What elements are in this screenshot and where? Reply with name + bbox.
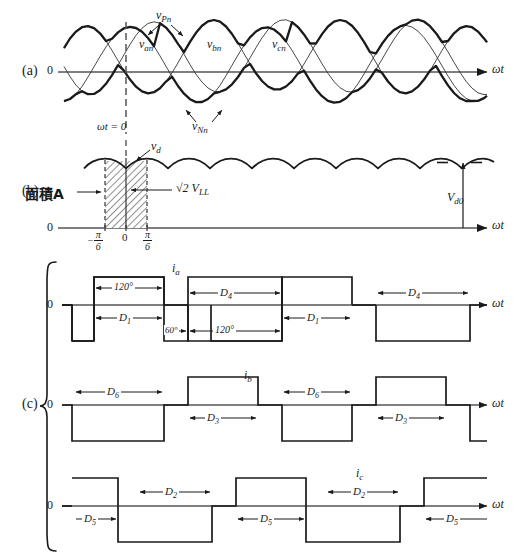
ia-d4-sub: 4 bbox=[228, 292, 232, 301]
ic-d2b-sub: 2 bbox=[361, 491, 365, 500]
ic-axis-label: ωt bbox=[492, 497, 504, 512]
vcn-sub: cn bbox=[277, 43, 286, 53]
label-ib: ib bbox=[244, 368, 252, 384]
tick2-num: π bbox=[143, 229, 152, 241]
ib-d3b-base: D bbox=[395, 411, 403, 423]
ic-d5c-sub: 5 bbox=[454, 518, 458, 527]
ib-d6b-base: D bbox=[307, 385, 315, 397]
tick-label-zero: 0 bbox=[122, 231, 128, 243]
label-van: van bbox=[139, 37, 153, 53]
ic-d2-sub: 2 bbox=[173, 491, 177, 500]
waveform-ib bbox=[62, 377, 487, 441]
envelope-vnn bbox=[64, 64, 487, 103]
ia-d4-base: D bbox=[220, 286, 228, 298]
label-area-a: 面積A bbox=[25, 183, 64, 203]
ia-d1b-sub: 1 bbox=[315, 317, 319, 326]
ia-zero: 0 bbox=[47, 297, 53, 312]
panel-a-label: (a) bbox=[22, 63, 38, 79]
ia-d1-sub: 1 bbox=[127, 317, 131, 326]
ib-ann-d3-2: D3 bbox=[393, 411, 409, 426]
label-sqrt2-vll: √2 VLL bbox=[176, 181, 209, 197]
ic-ann-d5-3: D5 bbox=[444, 512, 460, 527]
vpn-sub: Pn bbox=[161, 14, 171, 24]
tick0-sign: − bbox=[87, 235, 94, 246]
ic-ann-d2-2: D2 bbox=[351, 485, 367, 500]
panel-b-zero: 0 bbox=[47, 220, 53, 235]
label-vd0: Vd0 bbox=[447, 190, 463, 206]
ib-ann-d3-1: D3 bbox=[205, 411, 221, 426]
ia-d4b-sub: 4 bbox=[416, 292, 420, 301]
van-sub: an bbox=[144, 43, 153, 53]
ic-trace bbox=[72, 478, 487, 542]
figure-canvas bbox=[0, 0, 522, 557]
panel-c-label: (c) bbox=[22, 396, 38, 412]
label-vbn: vbn bbox=[207, 37, 221, 53]
tick-label-plus-pi-6: π 6 bbox=[143, 229, 152, 252]
vll-sub: LL bbox=[199, 187, 209, 197]
ia-ann-d4-2: D4 bbox=[406, 286, 422, 301]
panel-b-axis-label: ωt bbox=[492, 218, 504, 233]
ib-ann-d6-1: D6 bbox=[105, 385, 121, 400]
ic-d5b-base: D bbox=[260, 512, 268, 524]
label-vpn: vPn bbox=[156, 8, 171, 24]
panel-a-axis-label: ωt bbox=[492, 62, 504, 77]
ib-sub: b bbox=[247, 374, 252, 384]
vnn-sub: Nn bbox=[197, 125, 208, 135]
ic-d5b-sub: 5 bbox=[268, 518, 272, 527]
ic-zero: 0 bbox=[47, 498, 53, 513]
ic-d5-base: D bbox=[84, 512, 92, 524]
ib-d6b-sub: 6 bbox=[315, 391, 319, 400]
ia-sub: a bbox=[175, 267, 180, 277]
tick0-den: 6 bbox=[94, 241, 103, 252]
ic-d2b-base: D bbox=[353, 485, 361, 497]
vll-base: √2 V bbox=[176, 181, 199, 195]
ib-axis-label: ωt bbox=[492, 396, 504, 411]
ib-d3b-sub: 3 bbox=[403, 417, 407, 426]
ic-d5c-base: D bbox=[446, 512, 454, 524]
ia-d1b-base: D bbox=[307, 311, 315, 323]
ia-ann-d1-2: D1 bbox=[305, 311, 321, 326]
panel-b bbox=[58, 140, 494, 231]
waveform-figure bbox=[0, 0, 522, 557]
ib-zero: 0 bbox=[47, 397, 53, 412]
ib-d6-sub: 6 bbox=[115, 391, 119, 400]
ia-d1-base: D bbox=[119, 311, 127, 323]
ic-d2-base: D bbox=[165, 485, 173, 497]
ia-ann-120-top: 120° bbox=[112, 281, 135, 292]
vnn-arrow-right bbox=[212, 110, 222, 122]
ia-ann-120-bottom: 120° bbox=[213, 324, 236, 335]
vbn-sub: bn bbox=[212, 43, 221, 53]
ib-d3-base: D bbox=[207, 411, 215, 423]
vd0-sub: d0 bbox=[454, 196, 463, 206]
vd-sub: d bbox=[156, 145, 161, 155]
ib-ann-d6-2: D6 bbox=[305, 385, 321, 400]
panel-a-zero: 0 bbox=[47, 63, 53, 78]
ib-d6-base: D bbox=[107, 385, 115, 397]
ic-sub: c bbox=[359, 472, 363, 482]
ic-d5-sub: 5 bbox=[92, 518, 96, 527]
ia-d4b-base: D bbox=[408, 286, 416, 298]
ia-trace-2 bbox=[94, 277, 487, 341]
ic-ann-d2-1: D2 bbox=[163, 485, 179, 500]
ia-axis-label: ωt bbox=[492, 296, 504, 311]
tick2-den: 6 bbox=[143, 241, 152, 252]
ia-ann-d4-1: D4 bbox=[218, 286, 234, 301]
waveform-ic bbox=[62, 478, 487, 542]
label-ia: ia bbox=[172, 261, 180, 277]
tick0-num: π bbox=[94, 229, 103, 241]
tick-label-minus-pi-6: − π 6 bbox=[87, 229, 103, 252]
label-vd: vd bbox=[151, 139, 161, 155]
omega-t-zero-label: ωt = 0 bbox=[97, 120, 126, 132]
ic-ann-d5-1: D5 bbox=[82, 512, 98, 527]
label-vnn: vNn bbox=[192, 119, 208, 135]
ia-ann-60: 60° bbox=[164, 325, 179, 335]
ib-d3-sub: 3 bbox=[215, 417, 219, 426]
label-vcn: vcn bbox=[272, 37, 286, 53]
label-ic: ic bbox=[356, 466, 363, 482]
ia-ann-d1-1: D1 bbox=[117, 311, 133, 326]
ic-ann-d5-2: D5 bbox=[258, 512, 274, 527]
ib-trace bbox=[62, 377, 487, 441]
